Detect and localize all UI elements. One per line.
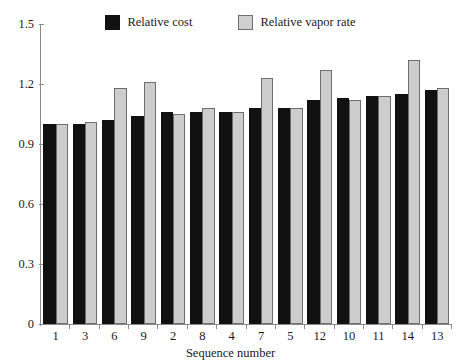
bar-group-4: [217, 24, 246, 324]
bar-13-relative-cost: [425, 90, 437, 324]
bar-12-relative-cost: [307, 100, 319, 324]
bar-group-12: [305, 24, 334, 324]
x-tick-13: [451, 325, 452, 329]
x-label-7: 7: [246, 330, 275, 343]
bar-1-relative-cost: [43, 124, 55, 324]
bar-group-1: [41, 24, 70, 324]
x-label-6: 6: [100, 330, 129, 343]
bar-group-2: [158, 24, 187, 324]
bar-6-relative-cost: [102, 120, 114, 324]
x-tick-4: [246, 325, 247, 329]
x-label-3: 3: [70, 330, 99, 343]
x-tick-10: [363, 325, 364, 329]
bar-8-relative-cost: [190, 112, 202, 324]
bar-group-6: [100, 24, 129, 324]
bar-group-7: [246, 24, 275, 324]
y-tick-label-0.9: 0.9: [18, 138, 34, 151]
x-tick-7: [275, 325, 276, 329]
x-axis-title: Sequence number: [0, 347, 461, 360]
bar-group-14: [393, 24, 422, 324]
y-tick-0: 0: [39, 324, 44, 325]
bar-9-relative-cost: [131, 116, 143, 324]
x-label-9: 9: [129, 330, 158, 343]
x-tick-11: [392, 325, 393, 329]
bar-chart: Relative cost Relative vapor rate 00.30.…: [0, 0, 461, 364]
bar-7-relative-vapor-rate: [261, 78, 273, 324]
bar-group-11: [364, 24, 393, 324]
bar-9-relative-vapor-rate: [144, 82, 156, 324]
bar-groups: [41, 24, 452, 324]
x-tick-5: [304, 325, 305, 329]
bar-4-relative-cost: [219, 112, 231, 324]
y-tick-label-1.5: 1.5: [18, 18, 34, 31]
x-tick-14: [422, 325, 423, 329]
x-tick-12: [334, 325, 335, 329]
x-tick-6: [128, 325, 129, 329]
x-label-11: 11: [364, 330, 393, 343]
bar-5-relative-vapor-rate: [290, 108, 302, 324]
bar-5-relative-cost: [278, 108, 290, 324]
bar-3-relative-cost: [73, 124, 85, 324]
bar-group-10: [334, 24, 363, 324]
bar-group-8: [188, 24, 217, 324]
y-tick-label-0: 0: [28, 318, 34, 331]
bar-8-relative-vapor-rate: [202, 108, 214, 324]
bar-2-relative-cost: [161, 112, 173, 324]
x-label-4: 4: [217, 330, 246, 343]
bar-6-relative-vapor-rate: [114, 88, 126, 324]
bar-3-relative-vapor-rate: [85, 122, 97, 324]
bar-13-relative-vapor-rate: [437, 88, 449, 324]
x-label-2: 2: [158, 330, 187, 343]
x-tick-2: [187, 325, 188, 329]
bar-group-3: [70, 24, 99, 324]
bar-group-5: [276, 24, 305, 324]
x-tick-1: [69, 325, 70, 329]
bar-14-relative-cost: [395, 94, 407, 324]
bar-4-relative-vapor-rate: [232, 112, 244, 324]
y-tick-label-1.2: 1.2: [18, 78, 34, 91]
x-label-12: 12: [305, 330, 334, 343]
bar-7-relative-cost: [249, 108, 261, 324]
bar-11-relative-vapor-rate: [378, 96, 390, 324]
x-label-5: 5: [276, 330, 305, 343]
bar-11-relative-cost: [366, 96, 378, 324]
y-tick-label-0.3: 0.3: [18, 258, 34, 271]
bar-1-relative-vapor-rate: [56, 124, 68, 324]
bar-10-relative-cost: [337, 98, 349, 324]
bar-14-relative-vapor-rate: [408, 60, 420, 324]
bar-10-relative-vapor-rate: [349, 100, 361, 324]
bar-12-relative-vapor-rate: [320, 70, 332, 324]
x-tick-9: [157, 325, 158, 329]
x-label-8: 8: [188, 330, 217, 343]
y-tick-label-0.6: 0.6: [18, 198, 34, 211]
x-label-10: 10: [334, 330, 363, 343]
x-label-13: 13: [422, 330, 451, 343]
bar-group-13: [422, 24, 451, 324]
x-tick-3: [99, 325, 100, 329]
x-label-1: 1: [41, 330, 70, 343]
x-axis-tick-labels: 1369284751210111413: [41, 330, 452, 343]
plot-area: 00.30.60.91.21.5: [40, 25, 452, 325]
bar-group-9: [129, 24, 158, 324]
bar-2-relative-vapor-rate: [173, 114, 185, 324]
x-label-14: 14: [393, 330, 422, 343]
x-tick-8: [216, 325, 217, 329]
